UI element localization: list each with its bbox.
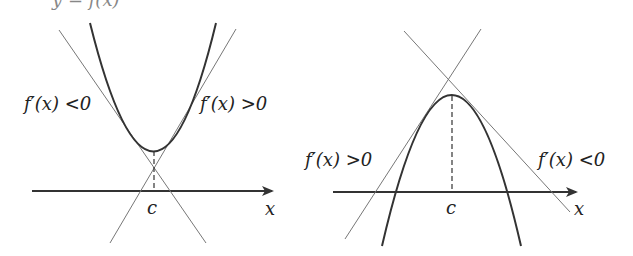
left-slope-positive-label: f′(x) >0: [198, 93, 267, 114]
right-slope-negative-label: f′(x) <0: [536, 149, 605, 170]
right-slope-positive-label: f′(x) >0: [303, 149, 372, 170]
right-tangent-decreasing: [404, 31, 570, 212]
left-figure: f′(x) <0 f′(x) >0 c x: [22, 23, 275, 243]
left-convex-curve: [90, 23, 216, 152]
left-axis-label: x: [265, 198, 275, 219]
right-axis-label: x: [574, 198, 584, 219]
diagram-canvas: f′(x) <0 f′(x) >0 c x f′(x) >0 f′(x) <0 …: [0, 0, 633, 256]
right-critical-point-label: c: [446, 197, 456, 218]
right-figure: f′(x) >0 f′(x) <0 c x: [303, 29, 605, 246]
left-critical-point-label: c: [147, 197, 157, 218]
left-slope-negative-label: f′(x) <0: [22, 93, 91, 114]
right-tangent-increasing: [345, 29, 481, 239]
left-tangent-increasing: [110, 29, 236, 243]
